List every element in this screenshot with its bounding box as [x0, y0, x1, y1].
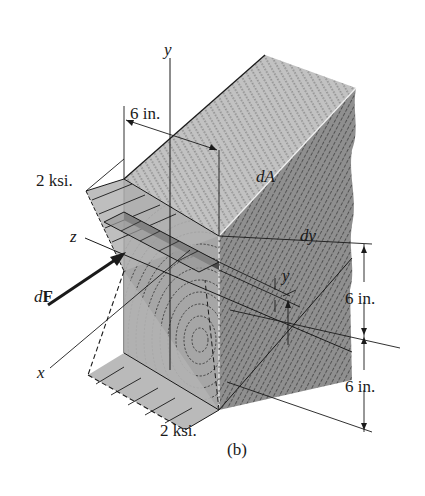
force-label: dF	[34, 288, 53, 305]
dy-label: dy	[300, 227, 316, 244]
bottom-stress-label: 2 ksi.	[160, 422, 197, 439]
y-height-label: y	[282, 267, 290, 284]
y-axis-label: y	[164, 41, 172, 58]
width-dimension-label: 6 in.	[130, 105, 160, 122]
lower-height-label: 6 in.	[345, 378, 375, 395]
force-label-symbol: F	[43, 287, 53, 306]
force-label-prefix: d	[34, 287, 43, 306]
x-axis-label: x	[37, 364, 45, 381]
force-arrow-line	[48, 258, 118, 305]
figure-caption: (b)	[227, 441, 247, 458]
top-stress-label: 2 ksi.	[36, 172, 73, 189]
diagram-canvas	[0, 0, 425, 496]
area-element-label: dA	[256, 168, 275, 185]
z-axis-label: z	[70, 228, 77, 245]
beam-stress-diagram: y 6 in. 2 ksi. dA z dy y dF 6 in. x 6 in…	[0, 0, 425, 496]
upper-height-label: 6 in.	[345, 290, 375, 307]
